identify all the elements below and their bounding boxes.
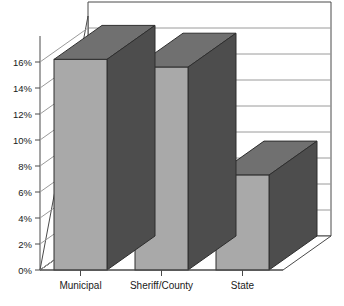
bar-chart-3d: 0%2%4%6%8%10%12%14%16% MunicipalSheriff/… (0, 0, 344, 306)
y-axis-tick-group: 0%2%4%6%8%10%12%14%16% (13, 57, 40, 276)
y-axis-tick-label: 0% (18, 265, 32, 276)
bar-side-face (107, 25, 155, 270)
y-axis-tick-label: 4% (18, 213, 32, 224)
y-axis-tick-label: 16% (13, 57, 33, 68)
bar-municipal[interactable] (54, 25, 155, 270)
x-axis-tick-group: MunicipalSheriff/CountyState (59, 270, 254, 291)
y-axis-tick-label: 2% (18, 239, 32, 250)
y-axis-tick-label: 12% (13, 109, 33, 120)
y-axis-tick-label: 14% (13, 83, 33, 94)
x-axis-category-label: Municipal (59, 280, 101, 291)
y-axis-tick-label: 10% (13, 135, 33, 146)
x-axis-category-label: Sheriff/County (130, 280, 193, 291)
bar-front-face (54, 59, 107, 270)
bar-side-face (188, 33, 236, 270)
x-axis-category-label: State (231, 280, 255, 291)
chart-container: 0%2%4%6%8%10%12%14%16% MunicipalSheriff/… (0, 0, 344, 306)
y-axis-tick-label: 8% (18, 161, 32, 172)
y-axis-tick-label: 6% (18, 187, 32, 198)
